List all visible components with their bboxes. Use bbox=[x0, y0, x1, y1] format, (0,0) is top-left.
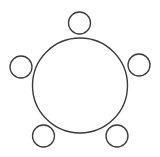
round-table-diagram bbox=[0, 0, 160, 157]
seat-group bbox=[10, 12, 150, 147]
table-circle bbox=[33, 38, 128, 133]
seat-circle-bottom-left bbox=[33, 125, 55, 147]
seat-circle-bottom-right bbox=[106, 125, 128, 147]
seat-circle-left bbox=[10, 56, 32, 78]
seat-circle-right bbox=[128, 54, 150, 76]
seat-circle-top bbox=[69, 12, 91, 34]
